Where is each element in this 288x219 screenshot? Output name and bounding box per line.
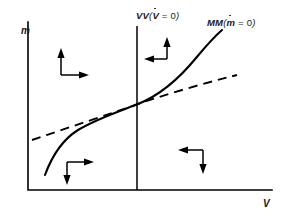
vv-label-prefix: VV <box>136 10 149 21</box>
arrow-up-icon <box>57 48 64 58</box>
arrow-right-icon <box>79 71 89 78</box>
arrow-left-icon <box>178 146 188 153</box>
vv-schedule-label: VV(V = 0) <box>136 11 179 21</box>
arrow-cluster-upper-left <box>57 48 89 79</box>
axes-lines <box>28 22 272 190</box>
arrow-down-icon <box>63 175 70 185</box>
mm-label-close-paren: ) <box>252 17 255 28</box>
x-axis-label: V <box>263 199 270 209</box>
mm-schedule-curve <box>45 30 222 175</box>
arrow-right-icon <box>84 158 94 165</box>
arrow-up-icon <box>163 37 170 47</box>
y-axis-label: m <box>21 26 30 36</box>
phase-diagram-figure: VV(V = 0) MM(m = 0) m V <box>0 0 288 219</box>
arrow-cluster-lower-right <box>178 146 207 174</box>
mm-schedule-label: MM(m = 0) <box>207 18 256 28</box>
mm-label-prefix: MM <box>207 17 223 28</box>
arrow-left-icon <box>144 55 154 62</box>
mm-label-variable: m <box>227 18 236 28</box>
mm-label-equation: = 0 <box>235 17 252 28</box>
vv-label-equation: = 0 <box>159 10 176 21</box>
arrow-cluster-upper-right <box>144 37 171 63</box>
arrow-cluster-lower-left <box>63 158 94 185</box>
vv-label-close-paren: ) <box>176 10 179 21</box>
dashed-schedule-curve <box>32 75 237 140</box>
vv-label-variable: V <box>152 11 159 21</box>
phase-diagram-canvas <box>0 0 288 219</box>
arrow-down-icon <box>199 164 206 174</box>
